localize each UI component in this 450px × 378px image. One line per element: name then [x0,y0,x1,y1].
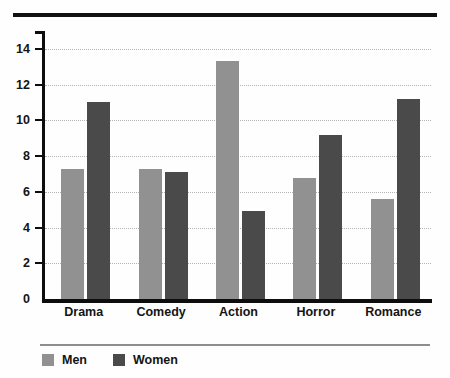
y-tick-label-2: 2 [2,257,30,270]
bar-horror-men [293,178,316,299]
legend-item-women[interactable]: Women [113,354,178,367]
y-tick-label-10: 10 [2,114,30,127]
legend-label-men: Men [62,354,87,367]
bar-group-drama [61,31,110,299]
bar-group-horror [293,31,342,299]
top-divider-rule [13,13,437,17]
bar-drama-women [87,102,110,299]
plot-area [45,31,432,299]
x-axis-line [42,299,432,303]
bar-action-men [216,61,239,299]
bar-chart-figure: 02468101214 DramaComedyActionHorrorRoman… [0,0,450,378]
category-label-action: Action [200,306,277,319]
y-tick-label-4: 4 [2,222,30,235]
category-label-romance: Romance [355,306,432,319]
bar-comedy-women [165,172,188,299]
bar-drama-men [61,169,84,299]
y-tick-label-8: 8 [2,150,30,163]
y-tick-mark-4 [35,227,43,229]
y-tick-mark-2 [35,262,43,264]
bar-romance-women [397,99,420,299]
y-tick-label-0: 0 [2,293,30,306]
y-axis-top-cap-icon [35,31,45,34]
category-label-drama: Drama [45,306,122,319]
legend-item-men[interactable]: Men [42,354,87,367]
y-tick-mark-14 [35,48,43,50]
y-tick-label-14: 14 [2,43,30,56]
y-tick-mark-10 [35,119,43,121]
bar-comedy-men [139,169,162,299]
category-label-horror: Horror [277,306,354,319]
bar-action-women [242,211,265,299]
y-tick-mark-12 [35,84,43,86]
category-label-comedy: Comedy [122,306,199,319]
bar-group-romance [371,31,420,299]
legend-swatch-men-icon [42,354,54,366]
legend-swatch-women-icon [113,354,125,366]
legend-label-women: Women [133,354,178,367]
chart-legend: MenWomen [42,354,178,367]
y-tick-mark-8 [35,155,43,157]
y-tick-label-6: 6 [2,186,30,199]
legend-divider-rule [40,344,430,346]
bar-romance-men [371,199,394,299]
bar-group-comedy [139,31,188,299]
bar-horror-women [319,135,342,299]
y-tick-label-12: 12 [2,79,30,92]
y-tick-mark-6 [35,191,43,193]
bar-group-action [216,31,265,299]
